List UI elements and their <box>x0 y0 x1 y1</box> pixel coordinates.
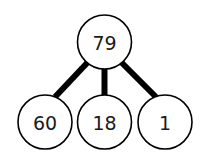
node-child-label: 18 <box>92 112 116 134</box>
node-child-label: 1 <box>159 112 171 134</box>
edge-root-to-1 <box>121 62 156 97</box>
edge-root-to-60 <box>55 62 88 97</box>
node-child-18: 18 <box>78 95 132 149</box>
node-child-label: 60 <box>33 112 57 134</box>
node-root: 79 <box>78 15 132 69</box>
node-child-60: 60 <box>18 95 72 149</box>
node-root-label: 79 <box>92 32 116 54</box>
tree-diagram: 79 60 18 1 <box>0 0 204 156</box>
node-child-1: 1 <box>138 95 192 149</box>
